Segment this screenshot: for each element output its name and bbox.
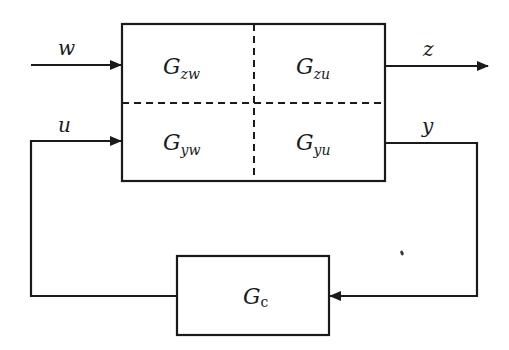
- label-g-yw: Gyw: [163, 130, 200, 158]
- signal-y-label: y: [421, 114, 434, 138]
- u-feedback-line: [31, 141, 177, 296]
- label-g-zw: Gzw: [163, 54, 200, 82]
- y-feedback-line: [330, 143, 477, 296]
- label-g-yu: Gyu: [296, 130, 331, 158]
- label-g-zu: Gzu: [296, 54, 330, 82]
- signal-z-label: z: [422, 37, 434, 61]
- label-g-c: Gc: [243, 284, 269, 310]
- signal-w-label: w: [58, 36, 75, 60]
- plant-block: [122, 24, 385, 181]
- signal-u-label: u: [58, 113, 71, 137]
- block-diagram: Gzw Gzu Gyw Gyu Gc w u z y: [0, 0, 509, 350]
- speck-mark: [400, 250, 405, 256]
